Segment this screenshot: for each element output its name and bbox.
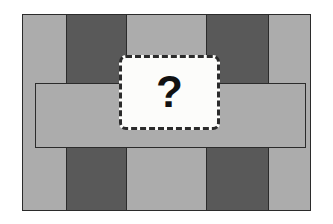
question-mark-label: ?: [156, 70, 183, 114]
unknown-region-card[interactable]: ?: [119, 55, 220, 130]
grid-cell-r1-c1: [66, 83, 127, 148]
grid-column-0: [23, 15, 66, 210]
grid-column-4: [269, 15, 310, 210]
diagram-canvas: ?: [0, 0, 333, 224]
